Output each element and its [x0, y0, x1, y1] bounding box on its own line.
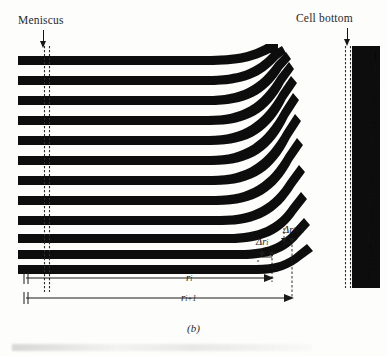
sedimentation-trace-plot	[0, 0, 387, 300]
trace-2	[18, 46, 286, 85]
delta-r-i1-label: Δri+1	[283, 224, 304, 235]
boundary-traces	[18, 44, 313, 274]
trace-9	[18, 165, 305, 225]
r-i-subscript: i	[190, 274, 192, 283]
delta-r-i1-subscript: i+1	[293, 226, 304, 235]
r-i1-label: ri+1	[181, 291, 196, 303]
cell-bottom-region	[346, 46, 381, 288]
figure-page: Meniscus Cell bottom	[0, 0, 387, 356]
r-i1-measure	[24, 292, 294, 304]
delta-r-i1-symbol: Δr	[283, 224, 293, 235]
figure-caption: (b)	[0, 322, 387, 334]
page-edge-artifact	[12, 344, 312, 351]
delta-r-i-symbol: Δr	[256, 236, 266, 247]
trace-1	[18, 44, 278, 65]
r-i1-subscript: i+1	[185, 294, 196, 303]
delta-r-i-subscript: i	[266, 238, 268, 247]
delta-r-i-label: Δri	[256, 236, 268, 247]
r-i-label: ri	[186, 271, 192, 283]
